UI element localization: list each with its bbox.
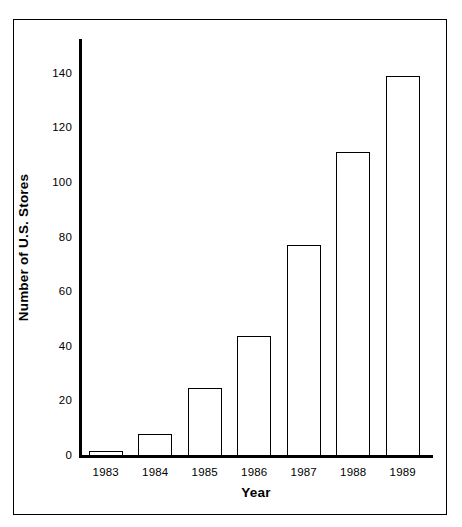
bar-chart-plot-area: 0 20 40 60 80 100 120 140 1983 1984 1985… [0,0,462,527]
x-tick-1987: 1987 [279,462,329,476]
y-tick-120: 120 [34,122,72,134]
bar-1987[interactable] [287,245,321,456]
y-tick-100: 100 [34,177,72,189]
x-tick-1989: 1989 [378,462,428,476]
bar-1984[interactable] [138,434,172,456]
y-tick-20: 20 [34,395,72,407]
bar-1986[interactable] [237,336,271,456]
y-tick-140: 140 [34,68,72,80]
bar-1988[interactable] [336,152,370,456]
y-tick-40: 40 [34,341,72,353]
x-tick-1986: 1986 [230,462,280,476]
y-axis-line [79,39,82,457]
x-tick-1984: 1984 [131,462,181,476]
y-tick-0: 0 [34,450,72,462]
bar-1985[interactable] [188,388,222,456]
y-tick-60: 60 [34,286,72,298]
y-tick-80: 80 [34,232,72,244]
y-axis-title: Number of U.S. Stores [16,148,31,348]
bar-1983[interactable] [89,451,123,456]
x-tick-1985: 1985 [180,462,230,476]
x-axis-title: Year [79,485,433,500]
x-tick-1983: 1983 [81,462,131,476]
x-tick-1988: 1988 [329,462,379,476]
bar-1989[interactable] [386,76,420,456]
